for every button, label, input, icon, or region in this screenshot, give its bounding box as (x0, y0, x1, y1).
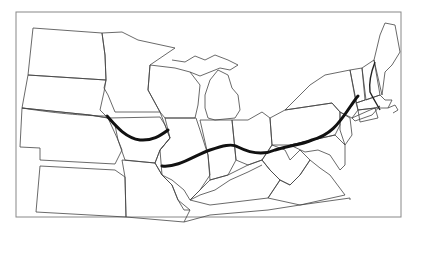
southern-thick-line (162, 96, 358, 166)
state-borders (20, 23, 400, 222)
map-canvas (0, 0, 436, 259)
highlight-lines (22, 62, 380, 166)
